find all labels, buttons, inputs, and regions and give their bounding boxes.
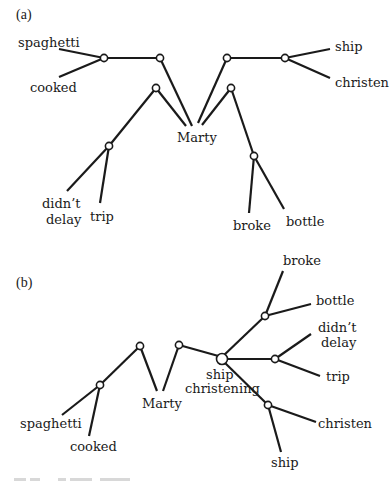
leaf-label-trip: trip (90, 209, 114, 224)
leaf-label-christen: christen (335, 75, 390, 90)
edge-b3-center (179, 345, 222, 357)
panel-b-label: (b) (16, 275, 33, 291)
leaf-label-didnt: didn’t (318, 320, 357, 335)
edge-bottle (254, 156, 284, 209)
panel-a-labels: spaghetti cooked didn’t delay trip Marty… (18, 35, 390, 233)
node-b6 (271, 355, 278, 362)
edge-a2-marty (160, 58, 192, 126)
edge-trip (275, 359, 320, 376)
edge-b1-b2 (100, 346, 140, 385)
leaf-label-ship: ship (335, 39, 363, 54)
edge-broke (249, 156, 254, 213)
leaf-label-delay: delay (46, 212, 82, 227)
node-label-christening: christening (185, 381, 260, 396)
node-a1 (100, 54, 107, 61)
leaf-label-broke: broke (233, 218, 271, 233)
edge-broke (265, 271, 283, 316)
node-a4 (105, 142, 112, 149)
node-a6 (281, 54, 288, 61)
leaf-label-christen: christen (318, 416, 373, 431)
leaf-label-marty: Marty (142, 396, 183, 411)
leaf-label-bottle: bottle (316, 293, 355, 308)
leaf-label-cooked: cooked (70, 439, 117, 454)
leaf-label-spaghetti: spaghetti (18, 35, 80, 50)
node-ship-christening (217, 354, 228, 365)
leaf-label-marty: Marty (177, 130, 218, 145)
node-a8 (250, 152, 257, 159)
panel-b: (b) spagh (16, 253, 373, 470)
edge-spaghetti (59, 49, 104, 58)
leaf-label-didnt: didn’t (42, 196, 81, 211)
panel-b-edges (62, 271, 320, 452)
node-a5 (223, 54, 230, 61)
panel-b-labels: spaghetti cooked Marty ship christening … (20, 253, 373, 470)
node-b5 (261, 312, 268, 319)
node-b1 (96, 381, 103, 388)
node-a7 (227, 84, 234, 91)
leaf-label-broke: broke (283, 253, 321, 268)
leaf-label-spaghetti: spaghetti (20, 416, 82, 431)
edge-b3-marty (163, 345, 179, 391)
edge-a7-a8 (231, 88, 254, 156)
edge-a3-a4 (109, 88, 156, 146)
node-a2 (156, 54, 163, 61)
edge-bottle (265, 304, 311, 316)
edge-ship (268, 405, 281, 452)
edge-center-b5 (222, 316, 265, 357)
leaf-label-delay: delay (321, 335, 357, 350)
leaf-label-trip: trip (326, 369, 350, 384)
edge-didnt-delay (275, 334, 311, 359)
node-b2 (136, 342, 143, 349)
edge-a3-marty (156, 88, 186, 126)
leaf-label-cooked: cooked (30, 80, 77, 95)
leaf-label-ship: ship (271, 455, 299, 470)
edge-cooked (59, 58, 104, 77)
panel-a: (a) (16, 7, 390, 233)
edge-b2-marty (140, 346, 157, 391)
node-label-ship: ship (206, 367, 234, 382)
edge-ship (285, 49, 330, 58)
edge-christen (268, 405, 316, 422)
leaf-label-bottle: bottle (286, 214, 325, 229)
node-a3 (152, 84, 159, 91)
edge-christen (285, 58, 330, 78)
node-b3 (175, 341, 182, 348)
tree-diagram-figure: (a) (0, 0, 392, 481)
node-b7 (264, 401, 271, 408)
panel-a-label: (a) (16, 7, 32, 23)
